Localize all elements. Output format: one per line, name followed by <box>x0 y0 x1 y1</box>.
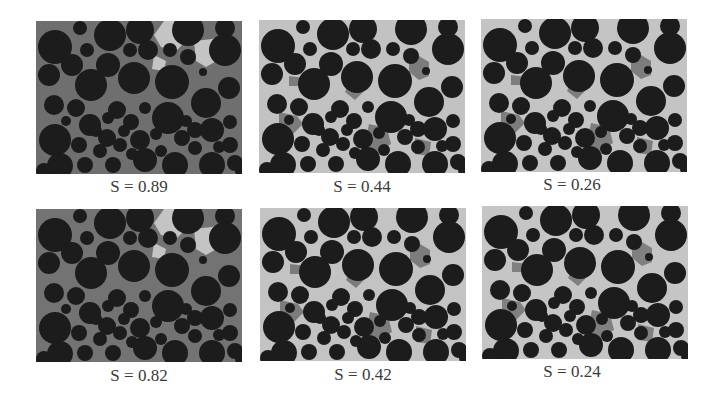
panel-5 <box>260 208 466 361</box>
caption-6: S = 0.24 <box>469 362 675 382</box>
caption-4: S = 0.82 <box>36 366 242 386</box>
micrograph-3 <box>481 19 687 172</box>
figure: S = 0.89 S = 0.44 S = 0.26 S = 0.82 S = … <box>0 0 725 402</box>
micrograph-2 <box>259 20 465 173</box>
panel-2 <box>259 20 465 173</box>
panel-6 <box>482 206 688 359</box>
panel-3 <box>481 19 687 172</box>
caption-3: S = 0.26 <box>469 175 675 195</box>
micrograph-4 <box>36 209 242 362</box>
micrograph-6 <box>482 206 688 359</box>
panel-4 <box>36 209 242 362</box>
micrograph-5 <box>260 208 466 361</box>
caption-2: S = 0.44 <box>259 177 465 197</box>
caption-5: S = 0.42 <box>260 365 466 385</box>
micrograph-1 <box>36 21 242 174</box>
panel-1 <box>36 21 242 174</box>
caption-1: S = 0.89 <box>36 177 242 197</box>
